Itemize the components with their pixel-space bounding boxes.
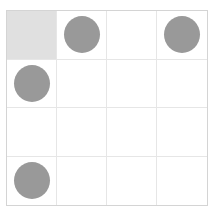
board-cell-3-1[interactable]: [57, 157, 107, 206]
board-cell-0-1[interactable]: [57, 11, 107, 60]
board-cell-3-3[interactable]: [157, 157, 207, 206]
board-cell-0-3[interactable]: [157, 11, 207, 60]
game-board: [6, 10, 208, 206]
board-cell-3-0[interactable]: [7, 157, 57, 206]
board-cell-2-2[interactable]: [107, 108, 157, 157]
board-cell-0-0[interactable]: [7, 11, 57, 60]
game-piece-circle-icon[interactable]: [64, 16, 100, 53]
game-piece-circle-icon[interactable]: [14, 65, 50, 102]
board-cell-1-0[interactable]: [7, 60, 57, 109]
board-cell-2-1[interactable]: [57, 108, 107, 157]
board-cell-1-1[interactable]: [57, 60, 107, 109]
board-cell-1-2[interactable]: [107, 60, 157, 109]
board-cell-0-2[interactable]: [107, 11, 157, 60]
game-piece-circle-icon[interactable]: [164, 16, 200, 53]
board-cell-3-2[interactable]: [107, 157, 157, 206]
game-piece-circle-icon[interactable]: [14, 162, 50, 199]
board-cell-2-3[interactable]: [157, 108, 207, 157]
board-cell-2-0[interactable]: [7, 108, 57, 157]
board-cell-1-3[interactable]: [157, 60, 207, 109]
